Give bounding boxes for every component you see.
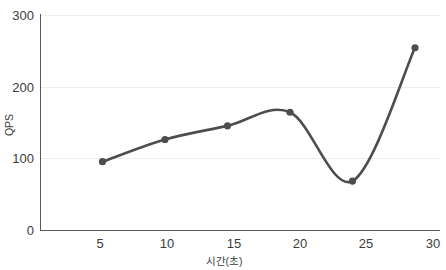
y-tick-label-200: 200: [12, 80, 34, 95]
y-tick-label-100: 100: [12, 151, 34, 166]
x-axis-title: 시간(초): [206, 255, 243, 267]
x-tick-label-15: 15: [227, 236, 241, 251]
x-tick-label-25: 25: [359, 236, 373, 251]
y-tick-label-0: 0: [27, 223, 34, 238]
y-axis-title: QPS: [3, 114, 15, 136]
data-point-marker[interactable]: [349, 177, 356, 184]
data-point-marker[interactable]: [411, 44, 418, 51]
x-tick-label-5: 5: [96, 236, 103, 251]
line-chart: 300 200 100 0 5 10 15 20 25 30 QPS 시간(초): [0, 0, 446, 270]
data-point-marker[interactable]: [99, 158, 106, 165]
x-tick-label-30: 30: [426, 236, 440, 251]
x-tick-label-20: 20: [293, 236, 307, 251]
data-point-marker[interactable]: [224, 122, 231, 129]
data-point-marker[interactable]: [286, 109, 293, 116]
y-tick-label-300: 300: [12, 8, 34, 23]
data-point-marker[interactable]: [161, 136, 168, 143]
chart-background: [0, 0, 446, 270]
x-tick-label-10: 10: [160, 236, 174, 251]
chart-container: 300 200 100 0 5 10 15 20 25 30 QPS 시간(초): [0, 0, 446, 270]
